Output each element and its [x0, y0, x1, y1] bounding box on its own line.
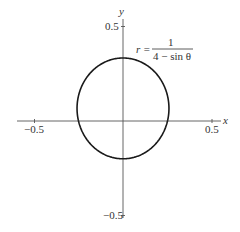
- equation-denominator: 4 − sin θ: [153, 50, 191, 62]
- x-tick-label-pos: 0.5: [205, 123, 219, 135]
- y-tick-label-pos: 0.5: [105, 20, 119, 32]
- x-tick-label-neg: −0.5: [24, 123, 44, 135]
- x-axis-label: x: [222, 114, 228, 126]
- equation-numerator: 1: [168, 36, 174, 48]
- equation-label: r = 1 4 − sin θ: [136, 36, 193, 62]
- polar-plot: x y −0.5 0.5 0.5 −0.5 r = 1 4 − sin θ: [0, 0, 240, 232]
- y-tick-label-neg: −0.5: [103, 209, 123, 221]
- y-axis-label: y: [118, 5, 124, 17]
- equation-lhs: r =: [136, 43, 150, 55]
